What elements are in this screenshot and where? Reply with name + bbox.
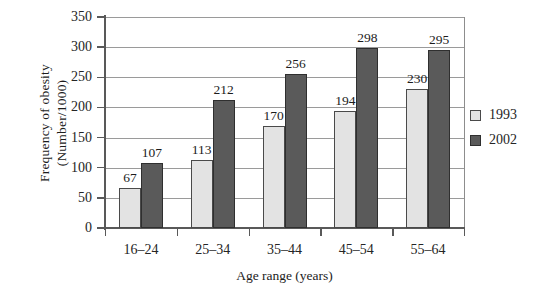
y-axis-tick [97, 107, 105, 108]
y-axis-tick-label: 200 [52, 100, 92, 114]
legend-item-2002[interactable]: 2002 [470, 132, 540, 157]
x-axis-category-label: 35–44 [250, 243, 320, 257]
y-axis-tick-label: 300 [52, 40, 92, 54]
legend: 1993 2002 [470, 107, 540, 157]
bar-2002-35–44 [285, 74, 307, 228]
y-axis-tick-label: 0 [52, 221, 92, 235]
bar-chart: Frequency of obesity (Number/1000) 05010… [0, 0, 543, 302]
y-axis-title-line-1: Frequency of obesity [37, 64, 52, 182]
x-axis-tick [392, 228, 393, 236]
x-axis-category-label: 55–64 [393, 243, 463, 257]
y-axis-tick-label: 50 [52, 191, 92, 205]
bar-value-label: 295 [416, 33, 462, 47]
y-axis-tick-label: 100 [52, 161, 92, 175]
legend-item-1993[interactable]: 1993 [470, 107, 540, 132]
y-axis-tick-label: 350 [52, 10, 92, 24]
bar-2002-16–24 [141, 163, 163, 228]
bar-value-label: 107 [129, 146, 175, 160]
x-axis-tick [249, 228, 250, 236]
y-axis-tick [97, 16, 105, 17]
y-axis-tick [97, 227, 105, 228]
bar-1993-16–24 [119, 188, 141, 228]
x-axis-category-label: 16–24 [106, 243, 176, 257]
y-axis-tick [97, 167, 105, 168]
bar-2002-45–54 [356, 48, 378, 228]
gridline [105, 47, 464, 48]
bar-2002-55–64 [428, 50, 450, 228]
bar-2002-25–34 [213, 100, 235, 228]
gridline [105, 17, 464, 18]
x-axis-tick [177, 228, 178, 236]
y-axis-tick [97, 197, 105, 198]
plot-right-border [464, 17, 465, 228]
bar-1993-45–54 [334, 111, 356, 228]
y-axis-tick-label: 150 [52, 131, 92, 145]
x-axis-tick [320, 228, 321, 236]
dark-gray-swatch-icon [470, 135, 481, 146]
bar-value-label: 256 [273, 57, 319, 71]
legend-label: 2002 [489, 132, 517, 148]
bar-1993-25–34 [191, 160, 213, 228]
x-axis-category-label: 25–34 [178, 243, 248, 257]
y-axis-tick [97, 46, 105, 47]
legend-label: 1993 [489, 107, 517, 123]
bar-value-label: 212 [201, 83, 247, 97]
y-axis-tick [97, 77, 105, 78]
x-axis-title: Age range (years) [105, 268, 464, 284]
y-axis-tick-label: 250 [52, 70, 92, 84]
light-gray-swatch-icon [470, 110, 481, 121]
x-axis-category-label: 45–54 [321, 243, 391, 257]
bar-value-label: 298 [344, 31, 390, 45]
y-axis-tick [97, 137, 105, 138]
x-axis-tick [464, 228, 465, 236]
x-axis-tick [105, 228, 106, 236]
bar-1993-35–44 [263, 126, 285, 228]
bar-1993-55–64 [406, 89, 428, 228]
